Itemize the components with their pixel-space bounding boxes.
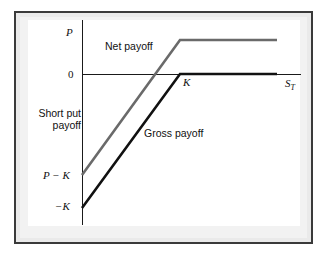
x-axis-label-strike: K [183, 76, 190, 88]
x-axis-label-st: ST [285, 77, 295, 93]
net-payoff-line [82, 40, 277, 175]
y-axis-label-zero: 0 [68, 68, 74, 80]
y-axis-caption-line-2: payoff [33, 120, 81, 132]
y-axis-label-p-minus-k: P − K [43, 169, 70, 181]
gross-payoff-annotation: Gross payoff [144, 128, 203, 140]
gross-payoff-line [82, 74, 277, 208]
y-axis-label-minus-k: −K [55, 200, 70, 212]
y-axis-caption-line-1: Short put [33, 108, 81, 120]
x-axis-label-st-subscript: T [291, 83, 295, 92]
net-payoff-annotation: Net payoff [105, 41, 153, 53]
figure-canvas: P 0 K ST P − K −K Short put payoff Net p… [0, 0, 328, 259]
y-axis-label-p: P [66, 26, 73, 38]
y-axis-caption: Short put payoff [33, 108, 81, 132]
